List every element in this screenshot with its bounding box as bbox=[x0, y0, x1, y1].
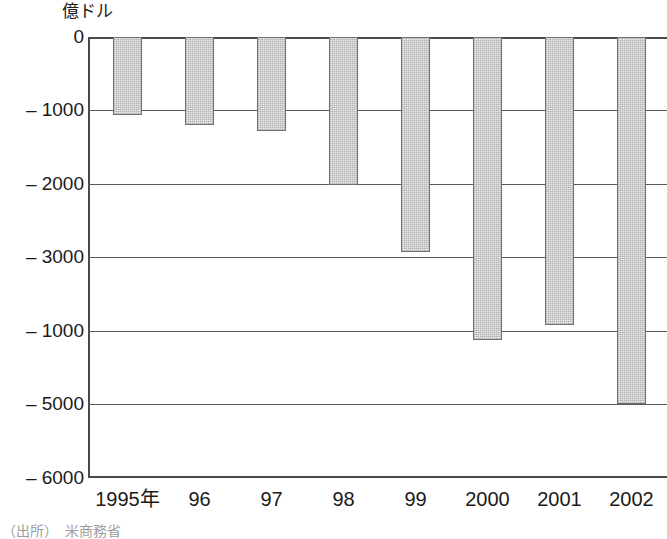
x-tick-label-97: 97 bbox=[235, 487, 308, 511]
x-tick-label-99: 99 bbox=[379, 487, 452, 511]
bar-98 bbox=[329, 37, 358, 185]
y-tick-label-2: – 2000 bbox=[0, 174, 84, 193]
x-axis-baseline bbox=[88, 476, 667, 478]
x-tick-label-98: 98 bbox=[307, 487, 380, 511]
gridline-4000 bbox=[88, 331, 667, 332]
gridline-1000 bbox=[88, 110, 667, 111]
plot-area bbox=[88, 37, 667, 478]
y-tick-label-0: 0 bbox=[0, 27, 84, 46]
x-axis-tick-labels: 1995年 96 97 98 99 2000 2001 2002 bbox=[88, 487, 667, 517]
gridline-2000 bbox=[88, 184, 667, 185]
bar-2000 bbox=[473, 37, 502, 340]
x-tick-label-2000: 2000 bbox=[451, 487, 524, 511]
y-tick-label-6: – 6000 bbox=[0, 468, 84, 487]
source-note: （出所） 米商務省 bbox=[2, 523, 121, 539]
x-tick-label-96: 96 bbox=[163, 487, 236, 511]
y-tick-label-5: – 5000 bbox=[0, 394, 84, 413]
y-tick-label-1: – 1000 bbox=[0, 100, 84, 119]
zero-axis-line bbox=[88, 37, 667, 39]
bar-1995 bbox=[113, 37, 142, 115]
y-axis-unit-label: 億ドル bbox=[62, 2, 113, 21]
x-tick-label-2001: 2001 bbox=[523, 487, 596, 511]
bar-99 bbox=[401, 37, 430, 252]
bar-2001 bbox=[545, 37, 574, 325]
y-tick-label-4: – 1000 bbox=[0, 321, 84, 340]
bar-96 bbox=[185, 37, 214, 125]
bar-2002 bbox=[617, 37, 646, 404]
bar-97 bbox=[257, 37, 286, 131]
gridline-3000 bbox=[88, 257, 667, 258]
y-axis-tick-labels: 0 – 1000 – 2000 – 3000 – 1000 – 5000 – 6… bbox=[0, 37, 84, 478]
x-tick-label-2002: 2002 bbox=[595, 487, 667, 511]
x-tick-label-1995: 1995年 bbox=[79, 487, 176, 511]
gridline-5000 bbox=[88, 404, 667, 405]
y-tick-label-3: – 3000 bbox=[0, 247, 84, 266]
